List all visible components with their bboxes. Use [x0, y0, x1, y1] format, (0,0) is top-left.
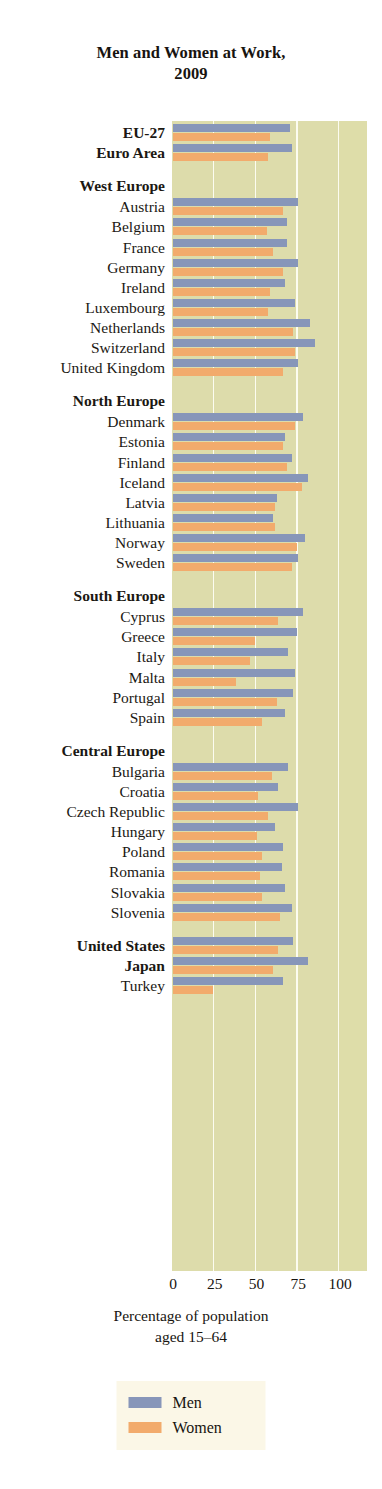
chart-title-line-1: Men and Women at Work,: [96, 43, 285, 62]
legend: Men Women: [117, 1381, 266, 1450]
bar-men: [173, 299, 295, 307]
bar-women: [173, 678, 236, 686]
bar-men: [173, 884, 285, 892]
row-label-slovakia: Slovakia: [0, 883, 165, 903]
bar-men: [173, 474, 308, 482]
row-label-norway: Norway: [0, 533, 165, 553]
row-label-euro-area: Euro Area: [0, 143, 165, 163]
chart-row: Malta: [0, 668, 382, 688]
chart-row: Portugal: [0, 688, 382, 708]
x-axis-caption: Percentage of population aged 15–64: [0, 1305, 382, 1347]
chart-row: Hungary: [0, 822, 382, 842]
legend-swatch-men-icon: [129, 1397, 162, 1408]
bar-women: [173, 348, 295, 356]
chart-row: Poland: [0, 842, 382, 862]
chart-row: Denmark: [0, 412, 382, 432]
chart-title-line-2: 2009: [0, 63, 382, 84]
row-label-belgium: Belgium: [0, 217, 165, 237]
legend-label-men: Men: [173, 1394, 202, 1412]
chart-row: Spain: [0, 708, 382, 728]
row-label-sweden: Sweden: [0, 553, 165, 573]
x-tick-100: 100: [328, 1274, 351, 1294]
chart-row: Netherlands: [0, 318, 382, 338]
bar-women: [173, 812, 268, 820]
row-label-hungary: Hungary: [0, 822, 165, 842]
bar-men: [173, 339, 315, 347]
chart-row: Germany: [0, 258, 382, 278]
chart-row: Euro Area: [0, 143, 382, 163]
row-label-turkey: Turkey: [0, 976, 165, 996]
row-label-estonia: Estonia: [0, 432, 165, 452]
bar-women: [173, 698, 277, 706]
region-heading-south-europe: South Europe: [0, 586, 165, 606]
x-axis-caption-line-2: aged 15–64: [0, 1326, 382, 1347]
chart-row: EU-27: [0, 123, 382, 143]
row-label-switzerland: Switzerland: [0, 338, 165, 358]
chart-row: North Europe: [0, 391, 382, 411]
chart-row: Slovenia: [0, 903, 382, 923]
bar-men: [173, 689, 293, 697]
bar-men: [173, 608, 303, 616]
bar-men: [173, 454, 292, 462]
bar-men: [173, 514, 273, 522]
bar-men: [173, 534, 305, 542]
bar-men: [173, 957, 308, 965]
bar-women: [173, 483, 302, 491]
bar-women: [173, 718, 262, 726]
bar-women: [173, 946, 278, 954]
legend-item-women: Women: [129, 1415, 256, 1440]
bar-men: [173, 709, 285, 717]
chart-row: Turkey: [0, 976, 382, 996]
bar-men: [173, 259, 298, 267]
legend-item-men: Men: [129, 1390, 256, 1415]
bar-men: [173, 628, 297, 636]
bar-men: [173, 937, 293, 945]
row-label-united-kingdom: United Kingdom: [0, 358, 165, 378]
row-label-malta: Malta: [0, 668, 165, 688]
row-label-united-states: United States: [0, 936, 165, 956]
bar-women: [173, 852, 262, 860]
bar-men: [173, 494, 277, 502]
bar-women: [173, 893, 262, 901]
bar-women: [173, 133, 270, 141]
chart-row: Austria: [0, 197, 382, 217]
row-label-slovenia: Slovenia: [0, 903, 165, 923]
chart-row: Italy: [0, 647, 382, 667]
bar-women: [173, 772, 272, 780]
bar-men: [173, 763, 288, 771]
row-label-luxembourg: Luxembourg: [0, 298, 165, 318]
bar-women: [173, 872, 260, 880]
bar-men: [173, 977, 283, 985]
chart-row: Japan: [0, 956, 382, 976]
bar-women: [173, 792, 258, 800]
x-axis-tick-labels: 0255075100: [0, 1274, 382, 1298]
row-label-eu-27: EU-27: [0, 123, 165, 143]
row-label-denmark: Denmark: [0, 412, 165, 432]
bar-women: [173, 248, 273, 256]
row-label-cyprus: Cyprus: [0, 607, 165, 627]
bar-men: [173, 124, 290, 132]
row-label-poland: Poland: [0, 842, 165, 862]
x-axis-caption-line-1: Percentage of population: [114, 1307, 269, 1324]
bar-men: [173, 239, 287, 247]
bar-men: [173, 279, 285, 287]
bar-women: [173, 153, 268, 161]
bar-men: [173, 218, 287, 226]
bar-women: [173, 463, 287, 471]
chart-row: Ireland: [0, 278, 382, 298]
row-label-austria: Austria: [0, 197, 165, 217]
row-label-portugal: Portugal: [0, 688, 165, 708]
bar-women: [173, 657, 250, 665]
row-label-romania: Romania: [0, 862, 165, 882]
bar-men: [173, 823, 275, 831]
chart-row: Switzerland: [0, 338, 382, 358]
bar-men: [173, 359, 298, 367]
bar-men: [173, 144, 292, 152]
bar-women: [173, 913, 280, 921]
bar-men: [173, 904, 292, 912]
bar-women: [173, 308, 268, 316]
chart-row: Sweden: [0, 553, 382, 573]
chart-row: Luxembourg: [0, 298, 382, 318]
x-tick-75: 75: [291, 1274, 307, 1294]
chart-row: Latvia: [0, 493, 382, 513]
